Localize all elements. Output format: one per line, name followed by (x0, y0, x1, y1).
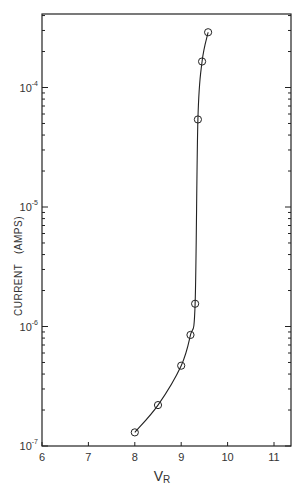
x-axis-label: VR (154, 468, 171, 485)
x-tick-label: 11 (268, 451, 279, 463)
data-point (187, 331, 194, 338)
x-ticks: 67891011 (39, 442, 280, 463)
x-tick-label: 7 (85, 451, 91, 463)
x-tick-label: 8 (132, 451, 138, 463)
y-ticks: 10-710-610-510-4 (20, 16, 291, 452)
y-axis-label: CURRENT (AMPS) (13, 216, 24, 316)
x-axis-label-subscript: R (163, 474, 170, 485)
x-tick-label: 6 (39, 451, 45, 463)
data-point (178, 362, 185, 369)
iv-chart: 67891011 10-710-610-510-4 VR CURRENT (AM… (0, 0, 306, 491)
data-point (198, 58, 205, 65)
y-tick-label: 10-4 (20, 80, 39, 94)
data-point (205, 29, 212, 36)
data-point (194, 116, 201, 123)
series-line (135, 32, 208, 432)
data-point (192, 300, 199, 307)
x-tick-label: 9 (178, 451, 184, 463)
x-tick-label: 10 (221, 451, 233, 463)
series-group (131, 29, 212, 436)
data-point (154, 401, 161, 408)
data-point (131, 429, 138, 436)
plot-frame (42, 14, 291, 446)
y-tick-label: 10-6 (20, 319, 39, 333)
y-tick-label: 10-5 (20, 199, 39, 213)
y-tick-label: 10-7 (20, 438, 39, 452)
